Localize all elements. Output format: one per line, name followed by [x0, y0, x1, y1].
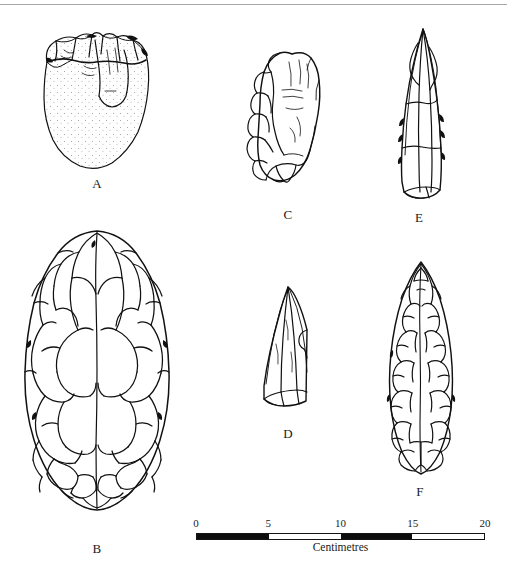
artefact-label-c: C — [268, 207, 308, 223]
artefact-label-e: E — [399, 210, 439, 226]
scale-tick-label-5: 5 — [266, 517, 272, 529]
artefact-label-f: F — [400, 484, 440, 500]
artefact-d-drawing — [264, 287, 307, 406]
scale-segment-10-15 — [341, 534, 413, 539]
artefact-c-drawing — [247, 52, 320, 182]
artefact-b-drawing — [25, 231, 169, 510]
figure-plate: A B C D E F 0 5 10 15 20 Centimetres — [0, 0, 507, 573]
scale-tick-label-10: 10 — [335, 517, 346, 529]
scale-tick-label-20: 20 — [480, 517, 491, 529]
artefact-label-a: A — [77, 176, 117, 192]
scale-tick-label-0: 0 — [193, 517, 199, 529]
scale-segment-0-5 — [197, 534, 269, 539]
scale-bar-group: 0 5 10 15 20 Centimetres — [196, 521, 485, 559]
artefact-f-drawing — [387, 262, 455, 474]
artefact-label-b: B — [77, 541, 117, 557]
artefact-e-drawing — [398, 29, 445, 199]
scale-caption: Centimetres — [196, 541, 485, 553]
artefact-a-drawing — [44, 33, 149, 169]
artefact-label-d: D — [268, 426, 308, 442]
scale-bar-track — [196, 533, 485, 540]
scale-tick-label-15: 15 — [407, 517, 418, 529]
